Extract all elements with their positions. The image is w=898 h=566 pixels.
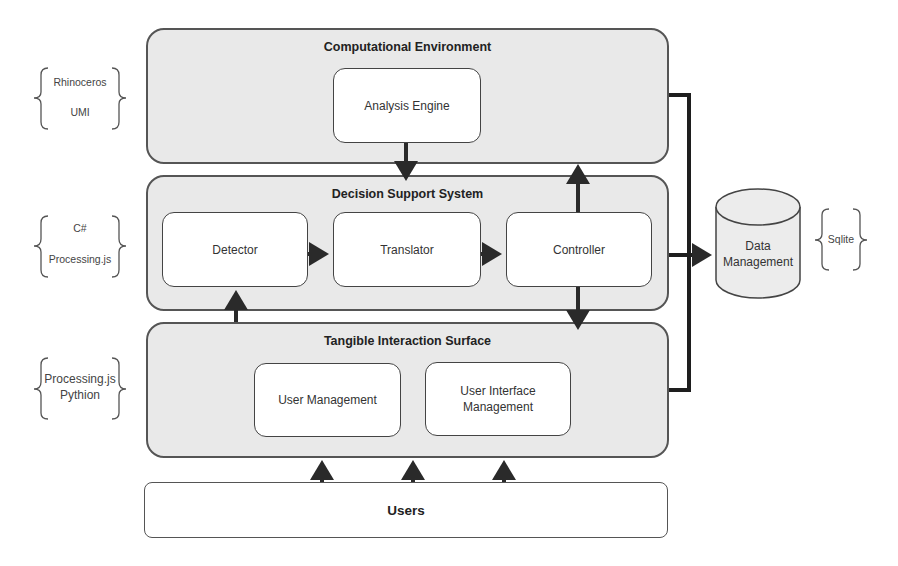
panel-title: Tangible Interaction Surface bbox=[148, 334, 667, 348]
arrows-users-to-tis bbox=[322, 464, 504, 482]
users-label: Users bbox=[387, 503, 425, 518]
analysis-engine-box: Analysis Engine bbox=[333, 68, 481, 143]
translator-label: Translator bbox=[380, 242, 434, 258]
detector-label: Detector bbox=[212, 242, 257, 258]
controller-box: Controller bbox=[506, 212, 652, 287]
user-interface-management-label: User Interface Management bbox=[448, 383, 548, 415]
tech-processingjs: Processing.js bbox=[42, 253, 118, 265]
panel-title: Computational Environment bbox=[148, 40, 667, 54]
analysis-engine-label: Analysis Engine bbox=[364, 98, 449, 114]
controller-label: Controller bbox=[553, 242, 605, 258]
tangible-interaction-surface-panel: Tangible Interaction Surface bbox=[146, 322, 669, 458]
users-box: Users bbox=[144, 482, 668, 538]
tech-csharp: C# bbox=[42, 222, 118, 234]
tech-rhinoceros: Rhinoceros bbox=[42, 76, 118, 88]
tech-sqlite: Sqlite bbox=[823, 233, 859, 245]
data-bus bbox=[669, 95, 708, 390]
detector-box: Detector bbox=[162, 212, 308, 287]
data-management-label-line1: Data bbox=[716, 238, 800, 254]
tech-processingjs: Processing.js bbox=[40, 372, 120, 386]
user-management-label: User Management bbox=[278, 392, 377, 408]
data-management-label: Data Management bbox=[716, 238, 800, 270]
translator-box: Translator bbox=[333, 212, 481, 287]
user-interface-management-box: User Interface Management bbox=[425, 362, 571, 436]
panel-title: Decision Support System bbox=[148, 187, 667, 201]
data-management-label-line2: Management bbox=[716, 254, 800, 270]
tech-umi: UMI bbox=[42, 106, 118, 118]
user-management-box: User Management bbox=[254, 363, 401, 437]
tech-pythion: Pythion bbox=[40, 388, 120, 402]
